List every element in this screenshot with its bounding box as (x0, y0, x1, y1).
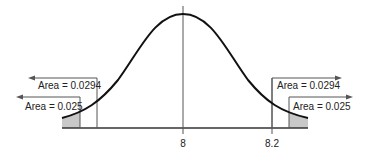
tick-label-mean: 8 (180, 138, 186, 149)
left-outer-label: Area = 0.0294 (38, 80, 102, 91)
right-outer-label: Area = 0.0294 (277, 80, 341, 91)
bell-curve (62, 14, 308, 118)
right-inner-label: Area = 0.025 (293, 101, 351, 112)
left-inner-label: Area = 0.025 (25, 101, 83, 112)
normal-distribution-chart: Area = 0.0294 Area = 0.025 Area = 0.0294… (0, 0, 366, 156)
left-inner-arrow-icon (16, 95, 23, 100)
tick-label-8-2: 8.2 (265, 138, 279, 149)
left-outer-arrow-icon (28, 76, 35, 81)
right-inner-arrow-icon (346, 95, 353, 100)
